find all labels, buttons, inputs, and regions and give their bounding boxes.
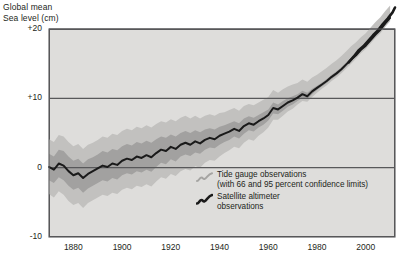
sea-level-chart: Global mean Sea level (cm) +20+100-10 18…	[0, 0, 412, 263]
x-tick-label: 1940	[200, 242, 240, 252]
chart-legend: Tide gauge observations (with 66 and 95 …	[196, 170, 392, 214]
y-tick-label: -10	[14, 231, 42, 241]
black-wiggle-line-icon	[196, 193, 213, 206]
gray-wiggle-line-icon	[196, 171, 213, 184]
x-tick-label: 1980	[297, 242, 337, 252]
x-tick-label: 1900	[102, 242, 142, 252]
chart-svg-overlay	[0, 0, 412, 263]
legend-label-satellite: Satellite altimeter observations	[217, 192, 280, 211]
legend-label-tide-gauge: Tide gauge observations (with 66 and 95 …	[217, 170, 368, 189]
x-tick-label: 2000	[346, 242, 386, 252]
legend-item-satellite: Satellite altimeter observations	[196, 192, 392, 211]
y-tick-label: +20	[14, 23, 42, 33]
y-tick-label: 0	[14, 162, 42, 172]
x-tick-label: 1880	[53, 242, 93, 252]
x-tick-label: 1920	[151, 242, 191, 252]
legend-item-tide-gauge: Tide gauge observations (with 66 and 95 …	[196, 170, 392, 189]
y-tick-label: +10	[14, 92, 42, 102]
x-tick-label: 1960	[248, 242, 288, 252]
